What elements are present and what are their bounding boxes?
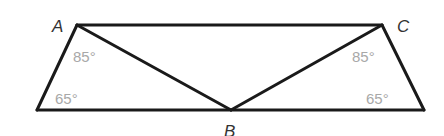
- segment-AB: [77, 25, 231, 110]
- angle-label-right-bottom: 65°: [366, 90, 389, 107]
- segment-CB: [231, 25, 382, 110]
- angle-label-right-top: 85°: [352, 48, 375, 65]
- trapezoid-diagram: A C B 85° 65° 85° 65°: [0, 0, 444, 136]
- vertex-label-a: A: [51, 17, 63, 36]
- vertex-label-c: C: [397, 17, 410, 36]
- angle-label-left-bottom: 65°: [55, 90, 78, 107]
- angle-label-left-top: 85°: [73, 48, 96, 65]
- vertex-label-b: B: [224, 122, 235, 136]
